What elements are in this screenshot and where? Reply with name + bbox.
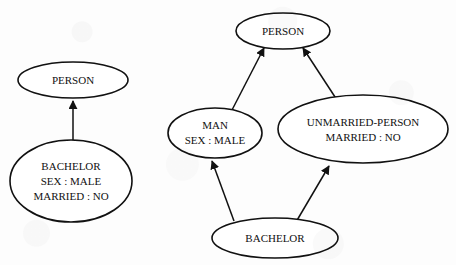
person-node[interactable]: PERSON [18, 62, 128, 98]
isa-edge-man-person [232, 48, 264, 110]
man-node-label-name: MAN [202, 119, 228, 131]
bachelor-node-label-name: BACHELOR [41, 160, 101, 172]
man-node[interactable]: MAN SEX : MALE [168, 108, 262, 158]
unmarried-person-node[interactable]: UNMARRIED-PERSON MARRIED : NO [278, 95, 448, 163]
bachelor-node-label-sex: SEX : MALE [41, 175, 102, 187]
unmarried-person-node-label-name: UNMARRIED-PERSON [307, 116, 420, 128]
man-node-label-sex: SEX : MALE [185, 134, 246, 146]
person-node[interactable]: PERSON [236, 13, 330, 49]
semantic-network-diagram: PERSON BACHELOR SEX : MALE MARRIED : NO [0, 0, 456, 265]
bachelor-node-label-married: MARRIED : NO [33, 190, 108, 202]
diagram-canvas: PERSON BACHELOR SEX : MALE MARRIED : NO [0, 0, 456, 265]
isa-edge-unmarried-person-person [303, 48, 337, 100]
person-node-label: PERSON [262, 25, 304, 37]
isa-edge-bachelor-man [212, 161, 234, 221]
isa-edge-bachelor-unmarried-person [296, 166, 329, 222]
bachelor-node-label: BACHELOR [245, 232, 305, 244]
single-inheritance-network: PERSON BACHELOR SEX : MALE MARRIED : NO [10, 62, 132, 222]
multiple-inheritance-network: PERSON MAN SEX : MALE UNMARRIED-PERSON M… [168, 13, 448, 258]
unmarried-person-node-label-married: MARRIED : NO [325, 131, 400, 143]
bachelor-node[interactable]: BACHELOR SEX : MALE MARRIED : NO [10, 140, 132, 222]
bachelor-node[interactable]: BACHELOR [212, 218, 338, 258]
person-node-label: PERSON [52, 74, 94, 86]
unmarried-person-node-ellipse[interactable] [278, 95, 448, 163]
